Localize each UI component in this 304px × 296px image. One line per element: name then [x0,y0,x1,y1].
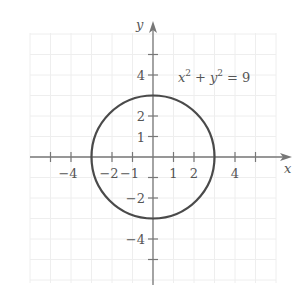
eq-equals: = 9 [227,70,250,85]
y-tick-label: −4 [126,232,145,247]
x-tick-label: −4 [58,166,77,181]
x-tick-label: 4 [231,166,239,181]
x-tick-label: −1 [120,166,139,181]
x-tick-label: 2 [190,166,198,181]
x-tick-label: 1 [169,166,177,181]
equation-label: x2+y2= 9 [178,68,250,85]
x-axis-label: x [284,161,292,176]
y-tick-label: −2 [126,191,145,206]
y-tick-label: 4 [137,68,145,83]
circle-graph: −4−2−1124421−2−4 y x x2+y2= 9 [0,0,304,296]
eq-plus: + [195,70,206,85]
y-tick-label: 1 [137,130,145,145]
axes [30,21,292,285]
eq-y-exp: 2 [217,68,223,78]
y-axis-label: y [135,17,144,32]
eq-x-exp: 2 [185,68,191,78]
x-tick-label: −2 [99,166,118,181]
y-tick-label: 2 [137,109,145,124]
